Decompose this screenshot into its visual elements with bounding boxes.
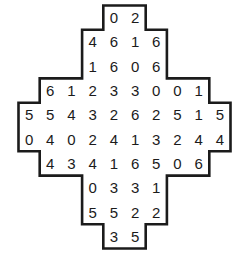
grid-cell-value: 0 xyxy=(125,54,146,78)
grid-cell-value: 5 xyxy=(40,103,61,127)
grid-cell-value: 2 xyxy=(82,127,103,151)
grid-cell-value: 2 xyxy=(82,78,103,102)
grid-cell-value: 0 xyxy=(146,78,167,102)
grid-cell-value: 3 xyxy=(146,127,167,151)
grid-cell-value: 3 xyxy=(103,224,124,248)
grid-cell-value: 6 xyxy=(40,78,61,102)
grid-cell-value: 3 xyxy=(103,78,124,102)
grid-cell-value: 1 xyxy=(188,103,209,127)
grid-cell-value: 1 xyxy=(188,78,209,102)
grid-cell-value: 3 xyxy=(61,151,82,175)
grid-cell-value: 4 xyxy=(61,103,82,127)
grid-cell-value: 5 xyxy=(209,103,230,127)
grid-cell-value: 6 xyxy=(103,54,124,78)
grid-cell-value: 1 xyxy=(61,78,82,102)
grid-cell-value: 6 xyxy=(125,103,146,127)
grid-cell-value: 5 xyxy=(125,224,146,248)
grid-cell-value: 3 xyxy=(125,78,146,102)
grid-cell-value: 0 xyxy=(167,78,188,102)
grid-cell-value: 4 xyxy=(40,127,61,151)
grid-cell-value: 6 xyxy=(188,151,209,175)
domino-puzzle-canvas: 0246161606612330015543262515040241324443… xyxy=(0,0,248,278)
grid-cell-value: 6 xyxy=(125,151,146,175)
grid-cell-value: 5 xyxy=(103,200,124,224)
grid-cell-value: 5 xyxy=(82,200,103,224)
grid-cell-value: 1 xyxy=(125,30,146,54)
grid-cell-value: 1 xyxy=(82,54,103,78)
grid-cell-value: 3 xyxy=(103,176,124,200)
grid-cell-value: 0 xyxy=(103,6,124,30)
grid-cell-value: 2 xyxy=(125,200,146,224)
grid-cell-value: 4 xyxy=(82,30,103,54)
grid-cell-value: 4 xyxy=(188,127,209,151)
grid-cell-value: 1 xyxy=(103,151,124,175)
grid-cell-value: 2 xyxy=(146,103,167,127)
grid-cell-value: 3 xyxy=(125,176,146,200)
grid-cell-value: 4 xyxy=(82,151,103,175)
grid-cell-value: 6 xyxy=(146,54,167,78)
grid-cell-value: 5 xyxy=(19,103,40,127)
grid-cell-value: 0 xyxy=(19,127,40,151)
grid-cell-value: 4 xyxy=(40,151,61,175)
grid-cell-value: 0 xyxy=(61,127,82,151)
grid-cell-value: 6 xyxy=(146,30,167,54)
grid-cell-value: 0 xyxy=(167,151,188,175)
grid-cell-value: 4 xyxy=(103,127,124,151)
grid-cell-value: 2 xyxy=(146,200,167,224)
grid-cell-value: 2 xyxy=(103,103,124,127)
grid-cell-value: 2 xyxy=(125,6,146,30)
grid-cell-value: 0 xyxy=(82,176,103,200)
grid-cell-value: 3 xyxy=(82,103,103,127)
grid-cell-value: 1 xyxy=(146,176,167,200)
grid-cell-value: 5 xyxy=(167,103,188,127)
grid-cell-value: 4 xyxy=(209,127,230,151)
grid-cell-value: 2 xyxy=(167,127,188,151)
grid-cell-value: 1 xyxy=(125,127,146,151)
grid-cell-value: 6 xyxy=(103,30,124,54)
grid-cell-value: 5 xyxy=(146,151,167,175)
